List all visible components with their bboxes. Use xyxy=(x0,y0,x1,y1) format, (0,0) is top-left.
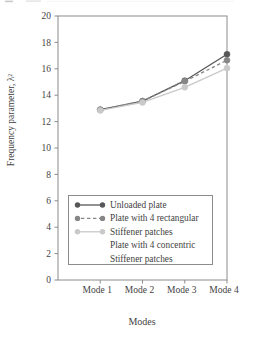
y-axis-tick-label: 4 xyxy=(46,222,51,232)
data-point-marker xyxy=(97,107,103,113)
legend-key-marker xyxy=(100,202,105,207)
data-point-marker xyxy=(224,51,230,57)
y-axis-tick-label: 14 xyxy=(42,90,52,100)
x-axis-category-label: Mode 3 xyxy=(167,285,197,295)
x-axis-title: Modes xyxy=(128,316,155,327)
y-axis-tick-label: 18 xyxy=(42,38,52,48)
y-axis-tick-label: 6 xyxy=(46,196,51,206)
cropped-text-artifact xyxy=(5,0,234,2)
series-line xyxy=(100,68,227,110)
legend-label: Plate with 4 rectangular xyxy=(110,213,199,223)
legend-key-marker xyxy=(75,216,80,221)
legend-key-marker xyxy=(75,202,80,207)
x-axis-category-label: Mode 4 xyxy=(209,285,239,295)
series-line xyxy=(100,60,227,110)
y-axis-tick-label: 16 xyxy=(42,64,52,74)
y-axis-tick-label: 20 xyxy=(42,11,52,21)
data-point-marker xyxy=(182,78,188,84)
series-line xyxy=(100,54,227,109)
y-axis-tick-label: 0 xyxy=(46,275,51,285)
series-0 xyxy=(97,51,230,112)
chart-canvas: 02468101214161820Mode 1Mode 2Mode 3Mode … xyxy=(0,0,255,338)
x-axis-category-label: Mode 1 xyxy=(83,285,113,295)
data-point-marker xyxy=(182,84,188,90)
frequency-parameter-line-chart: 02468101214161820Mode 1Mode 2Mode 3Mode … xyxy=(0,0,255,338)
legend-key-marker xyxy=(100,229,105,234)
legend-key-marker xyxy=(100,216,105,221)
x-axis-category-label: Mode 2 xyxy=(125,285,155,295)
legend-label: Stiffener patches xyxy=(110,227,173,237)
legend-label: Plate with 4 concentric xyxy=(110,240,195,250)
legend-label: Stiffener patches xyxy=(110,254,173,264)
legend-label: Unloaded plate xyxy=(110,200,167,210)
y-axis-tick-label: 2 xyxy=(46,249,51,259)
y-axis-tick-label: 10 xyxy=(42,143,52,153)
y-axis-tick-label: 8 xyxy=(46,170,51,180)
legend-key-marker xyxy=(75,229,80,234)
legend: Unloaded platePlate with 4 rectangularSt… xyxy=(69,196,213,265)
data-point-marker xyxy=(224,65,230,71)
x-axis: Mode 1Mode 2Mode 3Mode 4 xyxy=(83,280,239,295)
y-axis-tick-label: 12 xyxy=(42,117,52,127)
y-axis-title: Frequency parameter, λ² xyxy=(6,74,16,166)
data-point-marker xyxy=(140,99,146,105)
y-axis: 02468101214161820 xyxy=(42,11,59,285)
data-point-marker xyxy=(224,57,230,63)
